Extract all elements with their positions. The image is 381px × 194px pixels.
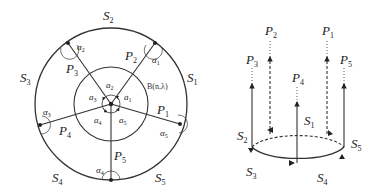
figure: S2 S1 S3 S4 S5 P1 P2 P3 P4 P5 α1 α2 α3 α…: [0, 0, 381, 194]
node-p2: [153, 41, 157, 45]
ellipse-front-solid: [252, 147, 344, 158]
right-diagram: P1 P2 P3 P4 P5 S1 S2 S3 S4 S5: [237, 23, 362, 187]
center-node: [109, 102, 113, 106]
label-a4: a4: [94, 115, 102, 126]
label-p3: P3: [65, 61, 78, 78]
path-line-p2: [111, 43, 155, 104]
arc-alpha3: [41, 116, 51, 134]
label-a2: a2: [106, 80, 114, 91]
right-label-p5: P5: [339, 52, 352, 69]
label-s2: S2: [103, 8, 114, 25]
ellipse-back-dashed: [252, 136, 344, 147]
label-s3: S3: [20, 70, 31, 87]
label-a3: a3: [89, 92, 97, 103]
label-alpha5: α5: [160, 128, 168, 139]
right-label-s2: S2: [237, 128, 248, 145]
label-s5: S5: [155, 170, 166, 187]
right-label-p2: P2: [264, 23, 277, 40]
right-label-p4: P4: [291, 70, 304, 87]
label-s1: S1: [187, 70, 198, 87]
label-alpha4: α4: [96, 165, 104, 176]
label-alpha3: α3: [43, 107, 51, 118]
label-ball: B(n,λ): [147, 82, 168, 91]
label-alpha1: α1: [152, 55, 160, 66]
right-label-s1: S1: [304, 113, 315, 130]
right-label-p3: P3: [245, 52, 258, 69]
label-p4: P4: [58, 123, 71, 140]
node-p4: [38, 123, 42, 127]
right-label-s4: S4: [317, 170, 328, 187]
label-p2: P2: [124, 48, 137, 65]
label-alpha2: α2: [77, 42, 85, 53]
node-p5: [109, 178, 113, 182]
node-p3: [66, 41, 70, 45]
right-label-s3: S3: [246, 164, 257, 181]
label-p1: P1: [156, 102, 169, 119]
label-s4: S4: [52, 170, 63, 187]
left-diagram: S2 S1 S3 S4 S5 P1 P2 P3 P4 P5 α1 α2 α3 α…: [20, 8, 198, 187]
label-a5: a5: [119, 115, 127, 126]
node-p1: [178, 122, 182, 126]
label-p5: P5: [113, 148, 126, 165]
right-label-p1: P1: [321, 23, 334, 40]
label-a1: a1: [124, 92, 132, 103]
right-label-s5: S5: [351, 136, 362, 153]
arc-alpha2: [61, 45, 79, 59]
